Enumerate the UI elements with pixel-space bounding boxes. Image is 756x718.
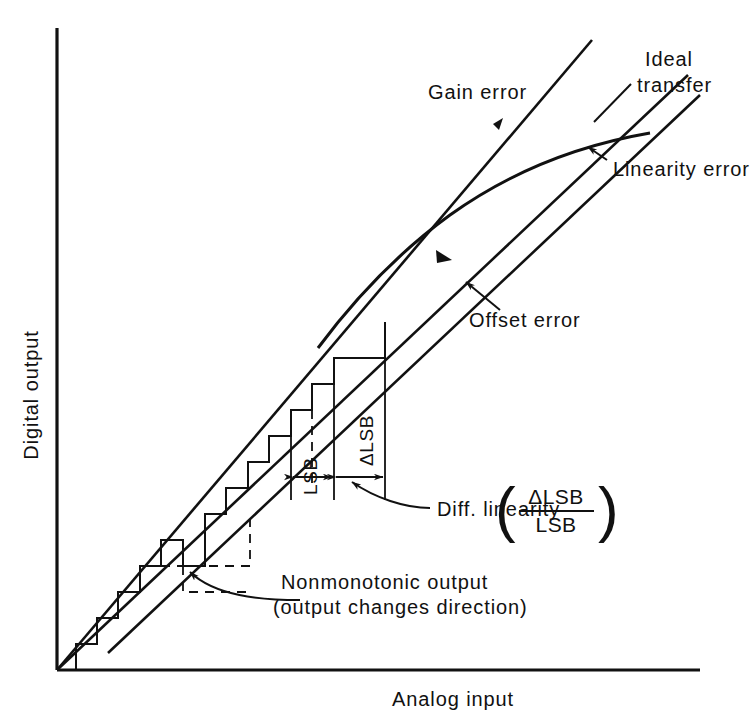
fraction-paren-close: ): [598, 474, 619, 543]
nonmonotonic-label-line2: (output changes direction): [273, 596, 528, 618]
figure-canvas: Digital output Analog input Gain error I…: [0, 0, 756, 718]
nonmonotonic-label-line1: Nonmonotonic output: [281, 571, 488, 593]
offset-error-label: Offset error: [469, 309, 581, 331]
fraction-paren-open: (: [495, 474, 516, 543]
diff-linearity-leader: [352, 482, 430, 508]
gain-error-label: Gain error: [428, 81, 527, 103]
x-axis-label: Analog input: [392, 688, 514, 710]
fraction-denominator: LSB: [536, 513, 577, 536]
gain-error-arrowhead: [493, 118, 503, 130]
transfer-function-diagram: Digital output Analog input Gain error I…: [0, 0, 756, 718]
offset-error-leader: [466, 282, 500, 310]
linearity-error-label: Linearity error: [613, 158, 750, 180]
lsb-label: LSB: [300, 457, 321, 495]
ideal-transfer-label-line2: transfer: [637, 74, 712, 96]
ideal-transfer-label-line1: Ideal: [645, 48, 693, 70]
ideal-transfer-leader: [594, 84, 631, 122]
offset-gap-arrowhead: [436, 250, 452, 263]
offset-error-line: [108, 95, 700, 653]
fraction-numerator: ΔLSB: [528, 485, 583, 508]
y-axis-label: Digital output: [20, 330, 42, 459]
delta-lsb-label: ΔLSB: [356, 415, 377, 466]
